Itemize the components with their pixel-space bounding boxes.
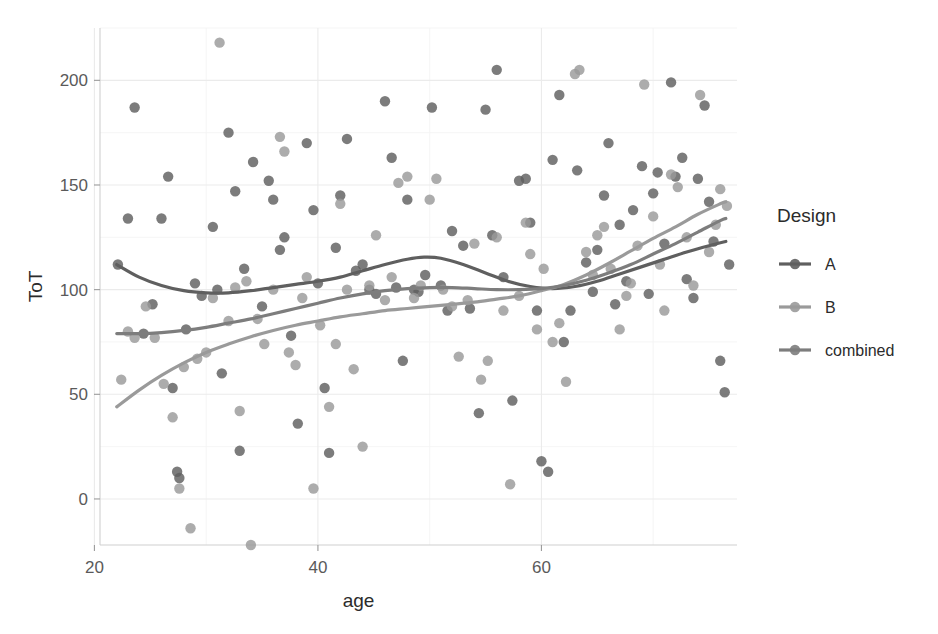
data-point: [599, 222, 609, 232]
data-point: [420, 270, 430, 280]
data-point: [167, 412, 177, 422]
data-point: [715, 184, 725, 194]
x-tick-label: 40: [308, 558, 327, 577]
data-point: [547, 155, 557, 165]
data-point: [364, 280, 374, 290]
data-point: [348, 364, 358, 374]
data-point: [230, 186, 240, 196]
data-point: [480, 104, 490, 114]
data-point: [159, 379, 169, 389]
data-point: [409, 293, 419, 303]
data-point: [561, 377, 571, 387]
data-point: [547, 337, 557, 347]
data-point: [521, 217, 531, 227]
data-point: [720, 387, 730, 397]
data-point: [626, 278, 636, 288]
y-tick-label: 0: [79, 490, 88, 509]
data-point: [498, 305, 508, 315]
data-point: [431, 174, 441, 184]
data-point: [331, 243, 341, 253]
data-point: [521, 174, 531, 184]
data-point: [536, 456, 546, 466]
data-point: [565, 305, 575, 315]
data-point: [386, 272, 396, 282]
legend-item-label: combined: [825, 342, 894, 359]
data-point: [190, 278, 200, 288]
data-point: [572, 165, 582, 175]
data-point: [163, 171, 173, 181]
data-point: [342, 134, 352, 144]
data-point: [286, 330, 296, 340]
data-point: [116, 374, 126, 384]
data-point: [532, 324, 542, 334]
data-point: [241, 276, 251, 286]
data-point: [621, 291, 631, 301]
data-point: [174, 483, 184, 493]
data-point: [704, 247, 714, 257]
data-point: [293, 418, 303, 428]
data-point: [259, 339, 269, 349]
data-point: [559, 337, 569, 347]
data-point: [319, 383, 329, 393]
y-axis-title: ToT: [25, 270, 46, 302]
y-tick-label: 150: [60, 176, 88, 195]
data-point: [331, 339, 341, 349]
data-point: [554, 318, 564, 328]
data-point: [302, 272, 312, 282]
data-point: [239, 264, 249, 274]
data-point: [279, 146, 289, 156]
data-point: [637, 161, 647, 171]
data-point: [538, 264, 548, 274]
y-tick-label: 100: [60, 281, 88, 300]
data-point: [402, 171, 412, 181]
data-point: [652, 167, 662, 177]
data-point: [371, 230, 381, 240]
legend-title: Design: [777, 205, 836, 226]
data-point: [275, 245, 285, 255]
data-point: [704, 197, 714, 207]
data-point: [279, 232, 289, 242]
x-axis-title: age: [343, 590, 375, 611]
data-point: [324, 402, 334, 412]
data-point: [156, 213, 166, 223]
data-point: [599, 190, 609, 200]
data-point: [695, 90, 705, 100]
data-point: [123, 213, 133, 223]
data-point: [308, 205, 318, 215]
data-point: [386, 153, 396, 163]
data-point: [141, 301, 151, 311]
data-point: [554, 90, 564, 100]
data-point: [673, 182, 683, 192]
data-point: [677, 153, 687, 163]
data-point: [469, 238, 479, 248]
x-tick-label: 60: [532, 558, 551, 577]
y-tick-label: 200: [60, 71, 88, 90]
data-point: [290, 360, 300, 370]
data-point: [639, 79, 649, 89]
data-point: [666, 77, 676, 87]
data-point: [532, 305, 542, 315]
data-point: [458, 240, 468, 250]
legend-item-label: A: [825, 256, 836, 273]
data-point: [284, 347, 294, 357]
data-point: [648, 188, 658, 198]
data-point: [208, 222, 218, 232]
data-point: [492, 232, 502, 242]
data-point: [424, 194, 434, 204]
data-point: [380, 96, 390, 106]
data-point: [592, 245, 602, 255]
data-point: [688, 293, 698, 303]
data-point: [454, 351, 464, 361]
legend-item-label: B: [825, 299, 836, 316]
data-point: [214, 37, 224, 47]
x-tick-label: 20: [85, 558, 104, 577]
data-point: [297, 293, 307, 303]
data-point: [324, 448, 334, 458]
data-point: [603, 138, 613, 148]
data-point: [476, 374, 486, 384]
legend-key-point: [790, 302, 800, 312]
data-point: [335, 199, 345, 209]
data-point: [393, 178, 403, 188]
data-point: [693, 174, 703, 184]
data-point: [581, 257, 591, 267]
